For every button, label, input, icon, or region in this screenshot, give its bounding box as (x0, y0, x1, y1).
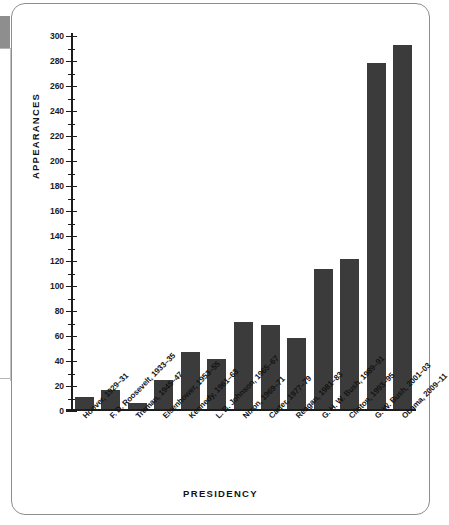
plot-area: 0204060801001201401601802002202402602803… (71, 36, 416, 411)
y-axis-tick-label: 120 (50, 256, 64, 266)
y-axis-tick-label: 60 (55, 331, 64, 341)
figure-card: APPEARANCES 0204060801001201401601802002… (11, 3, 430, 515)
y-axis-tick-label: 140 (50, 231, 64, 241)
bar-series (71, 34, 416, 409)
y-axis-tick-label: 20 (55, 381, 64, 391)
y-axis-tick-label: 300 (50, 31, 64, 41)
y-axis-tick-label: 220 (50, 131, 64, 141)
y-axis-tick-label: 0 (59, 406, 64, 416)
y-axis-tick-label: 240 (50, 106, 64, 116)
y-axis-tick-label: 260 (50, 81, 64, 91)
y-axis-tick-label: 80 (55, 306, 64, 316)
y-axis-tick-label: 200 (50, 156, 64, 166)
page-edge-artifact (0, 16, 10, 48)
y-axis-tick-label: 40 (55, 356, 64, 366)
x-axis-title: PRESIDENCY (12, 488, 429, 499)
y-axis-tick-label: 280 (50, 56, 64, 66)
y-axis-tick-label: 160 (50, 206, 64, 216)
bar (393, 45, 412, 409)
tick-mark (66, 411, 77, 412)
y-axis-tick-label: 180 (50, 181, 64, 191)
y-axis-tick-label: 100 (50, 281, 64, 291)
y-axis-title: APPEARANCES (30, 93, 41, 179)
